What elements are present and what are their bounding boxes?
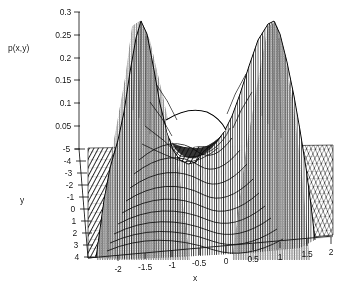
y-tick-label: 2 [51,229,77,238]
y-axis-line [79,149,88,258]
y-tick-label: 3 [52,241,78,250]
y-tick-label: -2 [47,181,73,190]
y-tick-label: 0 [49,205,75,214]
y-axis-title: y [20,196,24,205]
z-tick-label: 0.05 [40,122,71,131]
x-tick-label: 1 [266,253,294,262]
z-tick-label: 0.25 [40,31,71,40]
x-tick-label: 0 [212,257,240,266]
x-tick-label: -2 [104,265,132,274]
z-tick-label: 0.15 [40,76,71,85]
z-tick-label: 0.3 [40,8,71,17]
density-surface [90,18,323,263]
x-tick-label: -1 [158,261,186,270]
surface-plot-figure: 0.3 0.25 0.2 0.15 0.1 0.05 -5 -4 -3 -2 -… [0,0,355,288]
x-axis-title: x [193,274,197,283]
x-tick-label: 2 [317,248,345,257]
y-tick-label: 1 [50,217,76,226]
z-axis-title: p(x,y) [8,44,29,53]
x-tick-label: -0.5 [185,259,213,268]
y-tick-label: -5 [44,145,70,154]
x-tick-label: 0.5 [239,255,267,264]
z-tick-label: 0.2 [40,54,71,63]
y-tick-label: -4 [45,157,71,166]
y-tick-label: 4 [53,253,79,262]
y-tick-label: -1 [48,193,74,202]
z-tick-label: 0.1 [40,99,71,108]
x-tick-label: -1.5 [131,263,159,272]
y-tick-label: -3 [46,169,72,178]
